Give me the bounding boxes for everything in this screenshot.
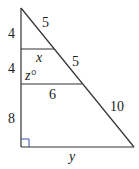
label-y: y [67,149,76,164]
label-hyp-top: 5 [42,15,49,30]
label-left-top: 4 [8,26,15,41]
label-hyp-mid: 5 [72,54,79,69]
label-x: x [35,50,43,65]
diagram-svg: 4 4 8 5 5 10 x 6 z° y [0,0,139,169]
label-hyp-bottom: 10 [110,99,124,114]
label-6: 6 [49,87,56,102]
label-left-bottom: 8 [8,111,15,126]
label-angle-z: z° [24,68,36,83]
hypotenuse [21,8,134,147]
triangle-diagram: 4 4 8 5 5 10 x 6 z° y [0,0,139,169]
label-left-mid: 4 [8,61,15,76]
right-angle-marker [21,139,29,147]
